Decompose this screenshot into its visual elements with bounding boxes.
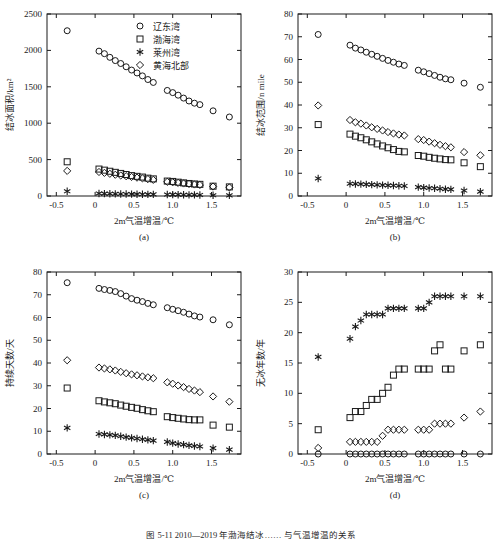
axis-box <box>298 272 492 454</box>
data-point <box>477 408 484 415</box>
data-point <box>421 305 427 312</box>
data-point <box>139 191 145 198</box>
y-tick-label: 70 <box>284 32 294 42</box>
data-point <box>145 436 151 443</box>
series-diamond <box>64 167 233 191</box>
data-point <box>191 191 197 198</box>
x-axis-title: 2m气温增温/℃ <box>114 215 174 226</box>
data-point <box>64 167 71 174</box>
y-tick-label: 500 <box>29 155 43 165</box>
data-point <box>415 183 421 190</box>
y-axis-title: 持续天数/天 <box>4 339 15 387</box>
data-point <box>426 299 432 306</box>
data-point <box>197 443 203 450</box>
data-point <box>396 305 402 312</box>
data-point <box>421 184 427 191</box>
data-point <box>64 28 70 34</box>
data-point <box>437 342 443 348</box>
y-tick-label: 50 <box>33 335 43 345</box>
y-tick-label: 50 <box>284 77 294 87</box>
data-point <box>315 427 321 433</box>
y-tick-label: 40 <box>284 100 294 110</box>
data-point <box>226 446 232 453</box>
y-tick-label: 25 <box>284 297 294 307</box>
series-circle <box>64 28 232 120</box>
data-point <box>134 190 140 197</box>
y-axis-title: 无冰年数/年 <box>255 339 266 387</box>
data-point <box>164 191 170 198</box>
data-point <box>477 188 483 195</box>
data-point <box>210 444 216 451</box>
data-point <box>363 402 369 408</box>
plot-d: 051015202530-0.500.51.01.52m气温增温/℃无冰年数/年… <box>251 258 502 513</box>
data-point <box>374 181 380 188</box>
data-point <box>134 435 140 442</box>
x-tick-label: 1.0 <box>418 458 430 468</box>
series-diamond <box>64 357 233 406</box>
data-point <box>118 190 124 197</box>
subplot-a: 05001000150020002500-0.500.51.01.52m气温增温… <box>0 0 251 255</box>
panel-tag: (b) <box>390 232 401 242</box>
data-point <box>363 181 369 188</box>
data-point <box>197 314 203 320</box>
data-point <box>437 293 443 300</box>
data-point <box>460 148 467 155</box>
x-axis-title: 2m气温增温/℃ <box>365 473 425 484</box>
y-tick-label: 60 <box>33 313 43 323</box>
plot-a: 05001000150020002500-0.500.51.01.52m气温增温… <box>0 0 251 255</box>
data-point <box>145 191 151 198</box>
data-point <box>477 342 483 348</box>
data-point <box>431 185 437 192</box>
y-axis-title: 结冰范围/n mile <box>255 74 266 135</box>
legend-item-circle: 辽东湾 <box>137 21 180 32</box>
data-point <box>460 414 467 421</box>
y-tick-label: 20 <box>284 328 294 338</box>
data-point <box>390 305 396 312</box>
y-tick-label: 15 <box>284 358 294 368</box>
data-point <box>150 302 156 308</box>
legend-label: 渤海湾 <box>153 34 180 45</box>
y-tick-label: 0 <box>38 449 43 459</box>
y-tick-label: 30 <box>284 267 294 277</box>
y-tick-label: 2000 <box>24 45 43 55</box>
legend-marker-star <box>137 48 143 55</box>
data-point <box>150 79 156 85</box>
data-point <box>64 424 70 431</box>
data-point <box>461 160 467 166</box>
legend-item-diamond: 黄海北部 <box>136 60 189 71</box>
x-tick-label: -0.5 <box>300 200 315 210</box>
data-point <box>380 390 386 396</box>
legend-item-square: 渤海湾 <box>137 34 180 45</box>
data-point <box>358 317 364 324</box>
data-point <box>226 192 232 199</box>
x-tick-label: 0.5 <box>379 458 391 468</box>
data-point <box>170 191 176 198</box>
data-point <box>448 186 454 193</box>
y-tick-label: 80 <box>284 9 294 19</box>
y-tick-label: 20 <box>284 146 294 156</box>
data-point <box>448 293 454 300</box>
legend-label: 黄海北部 <box>153 60 189 71</box>
data-point <box>401 62 407 68</box>
data-point <box>442 185 448 192</box>
data-point <box>150 191 156 198</box>
data-point <box>385 305 391 312</box>
data-point <box>107 431 113 438</box>
series-diamond <box>315 102 484 159</box>
data-point <box>461 293 467 300</box>
y-tick-label: 0 <box>289 191 294 201</box>
data-point <box>128 434 134 441</box>
figure-container: 05001000150020002500-0.500.51.01.52m气温增温… <box>0 0 502 540</box>
data-point <box>379 181 385 188</box>
series-square <box>315 342 483 433</box>
series-square <box>64 159 232 190</box>
x-tick-label: 0 <box>93 200 98 210</box>
legend-label: 莱州湾 <box>153 47 180 58</box>
data-point <box>180 441 186 448</box>
plot-c: 01020304050607080-0.500.51.01.52m气温增温/℃持… <box>0 258 251 513</box>
x-axis-title: 2m气温增温/℃ <box>365 215 425 226</box>
data-point <box>352 323 358 330</box>
data-point <box>315 175 321 182</box>
y-tick-label: 1500 <box>24 82 43 92</box>
data-point <box>369 181 375 188</box>
